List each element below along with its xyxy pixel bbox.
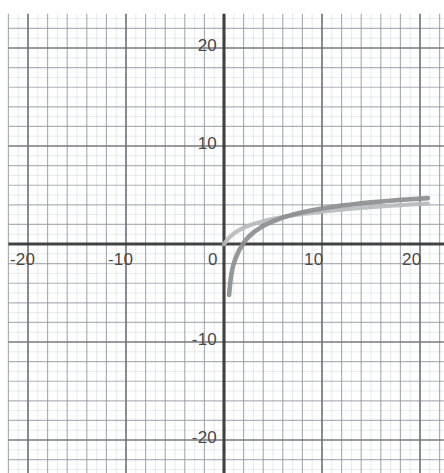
x-tick-label-20: 20 [402,250,421,270]
x-tick-label-10: 10 [304,250,323,270]
y-tick-label--10: -10 [192,330,217,350]
x-tick-label--20: -20 [10,250,35,270]
y-tick-label--20: -20 [192,428,217,448]
x-tick-label-0: 0 [208,250,218,270]
y-tick-label-10: 10 [198,134,217,154]
x-tick-label--10: -10 [108,250,133,270]
y-tick-label-20: 20 [198,36,217,56]
graph-figure: -20-10010202010-10-20 [0,0,444,473]
paper-background [0,0,444,473]
plot-canvas [0,0,444,473]
